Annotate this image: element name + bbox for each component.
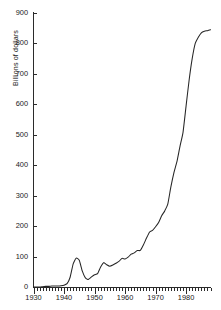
x-tick-minor [131, 288, 132, 291]
x-tick-minor [174, 288, 175, 291]
x-tick-minor [183, 288, 184, 291]
y-tick-label: 100 [0, 253, 28, 260]
x-tick-minor [70, 288, 71, 291]
y-tick [33, 165, 37, 166]
x-tick-minor [189, 288, 190, 291]
x-tick-minor [198, 288, 199, 291]
y-tick [33, 104, 37, 105]
y-tick-label: 700 [0, 70, 28, 77]
y-tick-label: 900 [0, 9, 28, 16]
x-tick-minor [85, 288, 86, 291]
x-tick-label: 1940 [49, 294, 79, 302]
x-tick-minor [113, 288, 114, 291]
x-tick-minor [128, 288, 129, 291]
x-tick-minor [165, 288, 166, 291]
x-tick-minor [52, 288, 53, 291]
x-tick-minor [55, 288, 56, 291]
x-tick-minor [177, 288, 178, 291]
y-tick [33, 74, 37, 75]
x-tick-minor [40, 288, 41, 291]
x-tick-minor [162, 288, 163, 291]
y-tick-label: 400 [0, 161, 28, 168]
x-tick-minor [134, 288, 135, 291]
x-tick-minor [171, 288, 172, 291]
x-tick-minor [98, 288, 99, 291]
y-tick [33, 43, 37, 44]
x-tick-minor [143, 288, 144, 291]
x-tick-minor [79, 288, 80, 291]
x-tick-minor [195, 288, 196, 291]
x-tick-label: 1960 [110, 294, 140, 302]
x-tick-label: 1930 [19, 294, 49, 302]
x-tick-minor [140, 288, 141, 291]
x-tick-minor [116, 288, 117, 291]
x-tick-minor [207, 288, 208, 291]
x-tick-minor [61, 288, 62, 291]
x-tick-minor [101, 288, 102, 291]
x-tick-minor [110, 288, 111, 291]
x-tick-minor [137, 288, 138, 291]
x-tick-minor [49, 288, 50, 291]
y-tick [33, 135, 37, 136]
y-tick-label: 200 [0, 222, 28, 229]
x-tick-minor [104, 288, 105, 291]
x-tick-minor [201, 288, 202, 291]
x-tick-label: 1970 [141, 294, 171, 302]
x-tick-minor [67, 288, 68, 291]
y-tick [33, 196, 37, 197]
x-tick-minor [43, 288, 44, 291]
x-tick-minor [107, 288, 108, 291]
x-tick-minor [91, 288, 92, 291]
x-tick-label: 1950 [80, 294, 110, 302]
line-chart: Billions of dollars 01002003004005006007… [0, 0, 221, 310]
y-tick-label: 0 [0, 283, 28, 290]
x-tick-minor [122, 288, 123, 291]
x-tick-minor [204, 288, 205, 291]
x-tick-minor [88, 288, 89, 291]
x-tick-minor [192, 288, 193, 291]
x-tick-minor [82, 288, 83, 291]
x-tick-minor [58, 288, 59, 291]
series-line-billions-of-dollars [34, 30, 211, 287]
x-tick-minor [153, 288, 154, 291]
y-tick [33, 226, 37, 227]
y-axis-line [33, 12, 34, 288]
y-tick [33, 13, 37, 14]
x-tick-minor [149, 288, 150, 291]
x-tick-minor [146, 288, 147, 291]
x-tick-minor [168, 288, 169, 291]
x-tick-minor [46, 288, 47, 291]
x-tick-minor [37, 288, 38, 291]
y-axis-title: Billions of dollars [12, 8, 24, 108]
y-tick-label: 500 [0, 131, 28, 138]
x-tick-minor [159, 288, 160, 291]
x-tick-minor [211, 288, 212, 291]
x-tick-minor [73, 288, 74, 291]
x-tick-minor [76, 288, 77, 291]
y-tick-label: 600 [0, 100, 28, 107]
y-tick-label: 800 [0, 39, 28, 46]
y-tick [33, 257, 37, 258]
x-tick-minor [119, 288, 120, 291]
y-tick-label: 300 [0, 192, 28, 199]
x-tick-minor [180, 288, 181, 291]
x-tick-label: 1980 [171, 294, 201, 302]
